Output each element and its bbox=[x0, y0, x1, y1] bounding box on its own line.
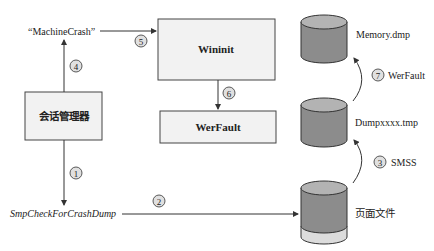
crash-dump-flow-diagram: “MachineCrash” 5 Wininit 6 WerFault 会话管理… bbox=[0, 0, 434, 251]
dump-tmp-label: Dumpxxxx.tmp bbox=[355, 117, 418, 128]
svg-text:1: 1 bbox=[74, 169, 79, 179]
wininit-box: Wininit bbox=[158, 19, 275, 80]
step-7-badge: 7 bbox=[372, 69, 384, 81]
svg-text:2: 2 bbox=[157, 197, 162, 207]
session-manager-label: 会话管理器 bbox=[39, 110, 90, 122]
page-file-label: 页面文件 bbox=[355, 207, 395, 219]
arrow-pagefile-to-dump bbox=[353, 140, 362, 183]
arrow-dump-to-memory bbox=[353, 58, 362, 101]
memory-dmp-label: Memory.dmp bbox=[356, 29, 410, 40]
werfault-label: WerFault bbox=[195, 121, 241, 133]
svg-text:6: 6 bbox=[227, 89, 232, 99]
wininit-label: Wininit bbox=[198, 43, 234, 55]
machine-crash-label: “MachineCrash” bbox=[28, 26, 95, 37]
page-file-cylinder-icon bbox=[301, 181, 347, 244]
session-manager-box: 会话管理器 bbox=[25, 92, 102, 140]
svg-text:3: 3 bbox=[378, 158, 383, 168]
step-5-badge: 5 bbox=[135, 35, 147, 47]
svg-text:5: 5 bbox=[139, 37, 144, 47]
step-4-badge: 4 bbox=[70, 60, 82, 72]
svg-text:7: 7 bbox=[376, 71, 381, 81]
step-3-badge: 3 bbox=[374, 156, 386, 168]
svg-text:4: 4 bbox=[74, 62, 79, 72]
step-7-label: WerFault bbox=[388, 70, 425, 81]
step-3-label: SMSS bbox=[391, 157, 417, 168]
step-2-badge: 2 bbox=[153, 195, 165, 207]
smp-check-label: SmpCheckForCrashDump bbox=[10, 208, 116, 219]
step-1-badge: 1 bbox=[70, 167, 82, 179]
step-6-badge: 6 bbox=[223, 87, 235, 99]
dump-tmp-cylinder-icon bbox=[301, 98, 347, 147]
werfault-box: WerFault bbox=[160, 111, 276, 143]
memory-dmp-cylinder-icon bbox=[301, 15, 347, 63]
